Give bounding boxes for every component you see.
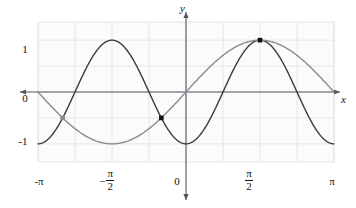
y-tick-label-neg1: -1 — [14, 136, 32, 147]
y-axis-arrow-down — [183, 194, 188, 200]
x-tick-label-neg-pi-over-2: – π 2 — [92, 168, 122, 192]
marked-point-1 — [159, 116, 164, 121]
y-tick-label-0: 0 — [18, 93, 32, 104]
y-axis-label: y — [180, 2, 185, 14]
marked-point-2 — [258, 38, 263, 43]
minus-sign: – — [100, 175, 106, 186]
y-tick-label-1: 1 — [18, 44, 32, 55]
x-tick-label-neg-pi: -π — [28, 176, 50, 187]
denominator: 2 — [106, 181, 114, 193]
x-tick-label-pi-over-2: π 2 — [236, 168, 262, 192]
numerator: π — [245, 168, 253, 180]
x-tick-label-zero: 0 — [168, 176, 186, 187]
x-tick-label-pi: π — [324, 176, 340, 187]
marked-point-0 — [60, 116, 65, 121]
x-axis-arrow-right — [334, 89, 340, 94]
denominator: 2 — [245, 181, 253, 193]
figure-canvas: 1 0 -1 -π – π 2 0 π 2 π x y — [0, 0, 356, 208]
numerator: π — [106, 168, 114, 180]
x-axis-label: x — [341, 93, 346, 105]
